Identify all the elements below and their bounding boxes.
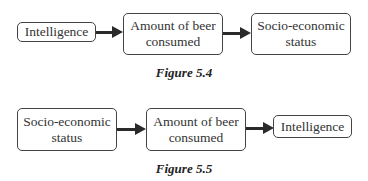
arrow-icon [117, 123, 146, 135]
figure-caption: Figure 5.4 [0, 65, 368, 81]
node-intelligence: Intelligence [273, 115, 352, 138]
node-socio-economic-status: Socio-economic status [17, 108, 117, 151]
node-socio-economic-status: Socio-economic status [251, 13, 351, 55]
node-amount-of-beer: Amount of beer consumed [123, 13, 223, 55]
node-amount-of-beer: Amount of beer consumed [146, 108, 246, 151]
node-intelligence: Intelligence [17, 22, 96, 42]
arrow-icon [223, 27, 251, 39]
arrow-icon [246, 122, 274, 134]
arrow-icon [96, 26, 123, 38]
figure-caption: Figure 5.5 [0, 161, 368, 177]
